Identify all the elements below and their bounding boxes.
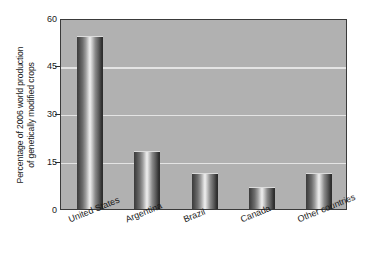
x-axis-tick-label: Argentina: [124, 201, 163, 225]
x-axis-tick-label: United States: [67, 195, 121, 225]
x-axis-tick-label: Other countries: [296, 192, 357, 224]
x-axis-tick-label: Canada: [239, 203, 272, 224]
x-axis-tick-label: Brazil: [182, 207, 207, 225]
bar-chart-figure: Percentage of 2006 world production of g…: [0, 0, 385, 269]
x-axis-tick-labels: United StatesArgentinaBrazilCanadaOther …: [0, 0, 385, 269]
